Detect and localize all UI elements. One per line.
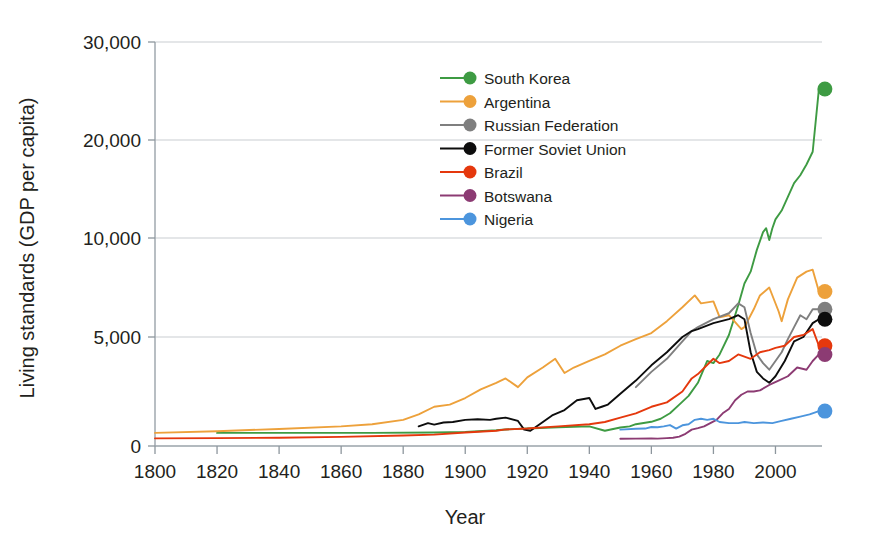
legend-marker: [464, 189, 477, 202]
x-tick-label: 1980: [692, 461, 734, 482]
legend-marker: [464, 213, 477, 226]
x-tick-label: 1860: [320, 461, 362, 482]
legend-label: Nigeria: [484, 211, 533, 228]
x-tick-label: 1840: [258, 461, 300, 482]
x-tick-label: 1820: [196, 461, 238, 482]
line-chart: 05,00010,00020,00030,000 180018201840186…: [0, 0, 870, 545]
x-axis-title: Year: [445, 506, 486, 528]
x-axis-ticks: 1800182018401860188019001920194019601980…: [134, 446, 797, 482]
legend-label: South Korea: [484, 70, 571, 87]
y-tick-label: 30,000: [83, 32, 141, 53]
legend-marker: [464, 142, 477, 155]
legend-label: Botswana: [484, 188, 552, 205]
legend-marker: [464, 72, 477, 85]
x-tick-label: 1960: [630, 461, 672, 482]
legend-label: Russian Federation: [484, 117, 618, 134]
series-endpoint-marker: [817, 347, 832, 362]
x-tick-label: 1920: [506, 461, 548, 482]
series-endpoint-marker: [817, 404, 832, 419]
endpoint-markers: [817, 82, 832, 419]
y-axis-title: Living standards (GDP per capita): [16, 98, 38, 399]
series-endpoint-marker: [817, 312, 832, 327]
series-endpoint-marker: [817, 284, 832, 299]
legend-label: Former Soviet Union: [484, 141, 626, 158]
series-line: [419, 315, 819, 431]
series-line: [155, 270, 819, 433]
series-endpoint-marker: [817, 82, 832, 97]
y-tick-label: 0: [130, 436, 141, 457]
chart-legend: South KoreaArgentinaRussian FederationFo…: [440, 70, 626, 228]
legend-marker: [464, 166, 477, 179]
legend-label: Brazil: [484, 164, 523, 181]
y-axis-ticks: 05,00010,00020,00030,000: [83, 32, 155, 457]
x-tick-label: 1900: [444, 461, 486, 482]
y-tick-label: 20,000: [83, 130, 141, 151]
chart-container: 05,00010,00020,00030,000 180018201840186…: [0, 0, 870, 545]
legend-marker: [464, 95, 477, 108]
y-tick-label: 5,000: [93, 327, 141, 348]
legend-marker: [464, 119, 477, 132]
series-line: [620, 411, 819, 430]
x-tick-label: 1800: [134, 461, 176, 482]
x-tick-label: 1880: [382, 461, 424, 482]
x-tick-label: 1940: [568, 461, 610, 482]
legend-label: Argentina: [484, 94, 551, 111]
y-tick-label: 10,000: [83, 228, 141, 249]
x-tick-label: 2000: [754, 461, 796, 482]
